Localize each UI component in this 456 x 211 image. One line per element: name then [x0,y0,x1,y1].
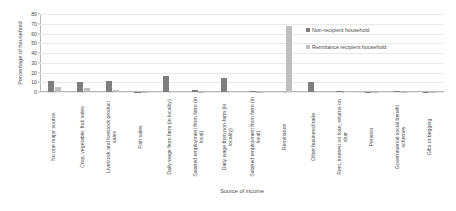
x-tick-slot: Gifts or begging [415,93,444,179]
x-tick-mark [228,91,229,93]
bar [343,91,349,92]
bar [48,81,54,92]
bar-group [271,14,300,92]
x-tick-slot: Governmental social benefit schemes [386,93,415,179]
x-tick-mark [372,91,373,93]
x-tick-slot: Fish sales [127,93,156,179]
bar-group [40,14,69,92]
x-tick-slot: Daily wage from non-farm (in locality) [213,93,242,179]
bar [250,91,256,92]
x-tick-slot: Rent, interest on loan, returns on shar [329,93,358,179]
bar [336,91,342,92]
legend-swatch [306,45,310,49]
x-axis-title: Source of income [40,188,444,194]
x-tick-slot: Pension [357,93,386,179]
y-tick-label: 80 [31,11,37,17]
bar-group [242,14,271,92]
bar-group [300,14,329,92]
x-tick-mark [430,91,431,93]
bar [163,76,169,92]
x-tick-label: Fish sales [138,95,144,179]
x-tick-label: Other business/trade [311,95,317,179]
x-tick-label: Livestock and livestock product sales [107,95,118,179]
x-tick-mark [285,91,286,93]
bar-group [329,14,358,92]
x-tick-mark [83,91,84,93]
y-tick-label: 40 [31,50,37,56]
x-tick-label: Daily wage from non-farm (in locality) [222,95,233,179]
x-tick-mark [314,91,315,93]
x-tick-label: Pension [369,95,375,179]
legend-label: Remittance recipient household [312,44,386,50]
y-tick-label: 60 [31,31,37,37]
bar-group [69,14,98,92]
bar [113,90,119,92]
bar [106,81,112,92]
x-tick-label: Crop, vegetable, fruit sales [80,95,86,179]
y-tick-label: 20 [31,70,37,76]
bar [192,90,198,92]
x-tick-mark [170,91,171,93]
legend-label: Non-recipient household [312,27,369,33]
legend-item: Remittance recipient household [306,44,386,50]
bar [308,82,314,92]
bar [55,87,61,92]
x-tick-label: Salaried employment from farm (in local) [193,95,204,179]
x-tick-slot: Crop, vegetable, fruit sales [69,93,98,179]
bar [394,91,400,92]
x-axis-tick-labels: No one major sourceCrop, vegetable, frui… [40,93,444,179]
y-tick-label: 0 [34,89,37,95]
x-tick-slot: Livestock and livestock product sales [98,93,127,179]
legend-item: Non-recipient household [306,27,386,33]
x-tick-label: Gifts or begging [427,95,433,179]
bar-group [98,14,127,92]
y-axis-title: Percentage of household [17,3,23,103]
x-tick-slot: Daily wage from farm (in locality) [155,93,184,179]
x-tick-mark [401,91,402,93]
bar [77,82,83,92]
bar-group [357,14,386,92]
y-tick-label: 50 [31,40,37,46]
x-tick-mark [256,91,257,93]
y-tick-label: 10 [31,79,37,85]
x-tick-slot: Other business/trade [300,93,329,179]
bar [221,78,227,92]
bar-chart: Percentage of household 0102030405060708… [0,0,456,211]
x-tick-label: Salaried employment from farm (in local) [251,95,262,179]
y-tick-label: 30 [31,60,37,66]
y-tick-label: 70 [31,21,37,27]
x-tick-slot: No one major source [40,93,69,179]
x-tick-label: Governmental social benefit schemes [395,95,406,179]
bar-group [386,14,415,92]
bar-group [127,14,156,92]
x-tick-label: Daily wage from farm (in locality) [167,95,173,179]
x-tick-mark [54,91,55,93]
bar [228,91,234,92]
bar [315,91,321,92]
x-tick-slot: Salaried employment from farm (in local) [184,93,213,179]
bar [286,26,292,92]
legend-swatch [306,28,310,32]
bar-series-container [40,14,444,92]
x-tick-label: Rent, interest on loan, returns on shar [337,95,348,179]
x-tick-label: No one major source [52,95,58,179]
x-tick-mark [199,91,200,93]
x-tick-slot: Salaried employment from farm (in local) [242,93,271,179]
x-tick-mark [343,91,344,93]
x-tick-mark [141,91,142,93]
chart-legend: Non-recipient householdRemittance recipi… [306,27,386,50]
bar-group [155,14,184,92]
x-tick-mark [112,91,113,93]
x-tick-slot: Remittance [271,93,300,179]
plot-area: 01020304050607080 [40,14,444,92]
bar [84,88,90,92]
x-tick-label: Remittance [283,95,289,179]
bar-group [415,14,444,92]
bar [170,91,176,92]
bar-group [213,14,242,92]
bar-group [184,14,213,92]
